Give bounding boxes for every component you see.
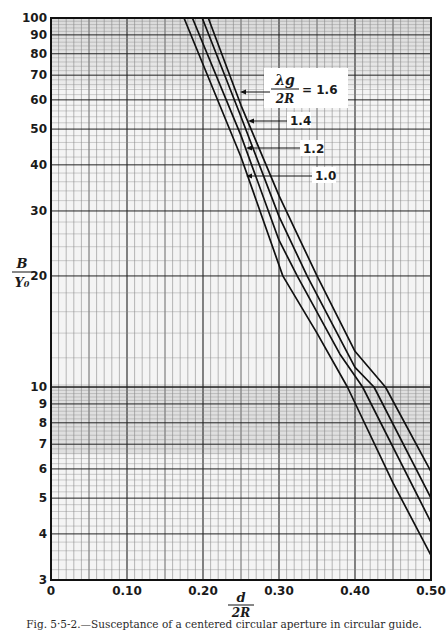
x-tick-label: 0.20	[188, 584, 218, 598]
x-tick-label: 0.50	[416, 584, 446, 598]
y-tick-label: 10	[30, 380, 47, 394]
x-tick-label: 0.10	[112, 584, 142, 598]
y-tick-label: 90	[30, 28, 47, 42]
y-tick-label: 3	[39, 573, 47, 587]
legend-value-1-0: 1.0	[315, 169, 336, 183]
legend-value-1-2: 1.2	[303, 142, 324, 156]
y-tick-label: 9	[39, 397, 47, 411]
y-tick-label: 4	[39, 527, 47, 541]
y-label-numerator: B	[16, 256, 28, 271]
legend-value-1-4: 1.4	[290, 114, 311, 128]
y-tick-label: 100	[22, 11, 47, 25]
y-tick-label: 70	[30, 68, 47, 82]
figure-caption: Fig. 5·5-2.—Susceptance of a centered ci…	[0, 618, 448, 630]
y-label-denominator: Y₀	[15, 275, 30, 290]
x-tick-label: 0.40	[340, 584, 370, 598]
x-axis-label: d 2R	[228, 590, 254, 620]
y-tick-labels: 3456789102030405060708090100	[22, 11, 47, 587]
legend-value-1-6: = 1.6	[302, 83, 338, 97]
y-tick-label: 5	[39, 491, 47, 505]
x-tick-labels: 00.100.200.300.400.50	[47, 584, 446, 598]
y-tick-label: 40	[30, 158, 47, 172]
y-tick-label: 50	[30, 122, 47, 136]
y-tick-label: 80	[30, 47, 47, 61]
x-tick-label: 0.30	[264, 584, 294, 598]
y-tick-label: 8	[39, 416, 47, 430]
x-label-numerator: d	[236, 590, 245, 605]
y-tick-label: 7	[39, 437, 47, 451]
y-tick-label: 20	[30, 269, 47, 283]
chart: 3456789102030405060708090100 00.100.200.…	[0, 0, 448, 637]
y-tick-label: 60	[30, 93, 47, 107]
legend-param-denominator: 2R	[275, 92, 294, 106]
x-tick-label: 0	[47, 584, 55, 598]
y-tick-label: 6	[39, 462, 47, 476]
y-tick-label: 30	[30, 204, 47, 218]
legend-param-numerator: λg	[274, 72, 295, 88]
